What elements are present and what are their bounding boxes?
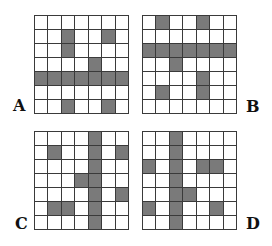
grid-cell-empty [183,202,195,215]
grid-cell-empty [224,100,236,113]
grid-cell-empty [35,30,47,43]
grid-cell-filled [48,202,60,215]
grid-cell-empty [197,132,209,145]
grid-cell-empty [210,30,222,43]
grid-cell-filled [35,72,47,85]
grid-cell-filled [170,160,182,173]
grid-cell-empty [224,72,236,85]
grid-cell-empty [210,86,222,99]
grid-cell-empty [102,44,114,57]
option-b-label: B [246,99,260,115]
grid-cell-empty [116,202,128,215]
grid-cell-empty [62,58,74,71]
grid-cell-empty [156,72,168,85]
grid-cell-empty [210,16,222,29]
grid-cell-empty [156,160,168,173]
grid-cell-empty [170,16,182,29]
grid-cell-empty [210,72,222,85]
grid-cell-empty [35,16,47,29]
grid-cell-empty [116,216,128,229]
grid-cell-empty [170,100,182,113]
grid-cell-empty [197,146,209,159]
option-c-grid [34,131,129,230]
grid-cell-empty [116,16,128,29]
grid-cell-empty [183,16,195,29]
grid-cell-filled [116,146,128,159]
option-a-label: A [13,98,25,114]
grid-cell-empty [35,216,47,229]
grid-cell-empty [48,216,60,229]
grid-cell-empty [75,30,87,43]
grid-cell-filled [170,44,182,57]
grid-cell-empty [224,16,236,29]
grid-cell-filled [170,146,182,159]
grid-cell-filled [89,188,101,201]
grid-cell-empty [183,100,195,113]
grid-cell-empty [48,100,60,113]
grid-cell-filled [170,188,182,201]
grid-cell-empty [143,100,155,113]
grid-cell-empty [89,44,101,57]
grid-cell-filled [62,100,74,113]
grid-cell-filled [170,132,182,145]
grid-cell-empty [35,174,47,187]
grid-cell-filled [102,72,114,85]
grid-cell-empty [197,30,209,43]
grid-cell-empty [143,58,155,71]
grid-cell-empty [197,188,209,201]
grid-cell-empty [224,146,236,159]
grid-cell-empty [224,188,236,201]
grid-cell-empty [224,30,236,43]
option-d-label: D [246,216,260,232]
grid-cell-empty [48,16,60,29]
grid-cell-filled [170,202,182,215]
grid-cell-filled [89,160,101,173]
grid-cell-empty [156,188,168,201]
grid-cell-filled [210,160,222,173]
grid-cell-empty [170,72,182,85]
grid-cell-empty [102,174,114,187]
grid-cell-filled [183,188,195,201]
grid-cell-empty [116,132,128,145]
grid-cell-filled [62,202,74,215]
grid-cell-empty [143,132,155,145]
grid-cell-empty [35,44,47,57]
grid-cell-empty [102,146,114,159]
grid-cell-empty [62,146,74,159]
grid-cell-empty [197,202,209,215]
grid-cell-empty [89,86,101,99]
grid-cell-empty [156,202,168,215]
grid-cell-empty [210,132,222,145]
grid-cell-empty [183,30,195,43]
grid-cell-empty [75,100,87,113]
grid-cell-filled [197,160,209,173]
grid-cell-filled [75,174,87,187]
grid-cell-empty [210,216,222,229]
option-b-grid [142,15,237,114]
grid-cell-empty [224,86,236,99]
grid-cell-filled [89,132,101,145]
grid-cell-filled [89,216,101,229]
grid-cell-filled [89,146,101,159]
grid-cell-filled [224,44,236,57]
grid-cell-empty [210,174,222,187]
grid-cell-empty [224,160,236,173]
grid-cell-filled [89,58,101,71]
grid-cell-empty [48,132,60,145]
grid-cell-empty [224,58,236,71]
grid-cell-filled [197,72,209,85]
grid-cell-empty [224,202,236,215]
option-d-grid [142,131,237,230]
grid-cell-empty [156,146,168,159]
grid-cell-empty [156,58,168,71]
grid-cell-empty [89,16,101,29]
grid-cell-empty [143,16,155,29]
grid-cell-empty [35,202,47,215]
grid-cell-empty [143,30,155,43]
grid-cell-empty [183,146,195,159]
grid-cell-filled [143,44,155,57]
grid-cell-empty [210,58,222,71]
grid-cell-empty [143,216,155,229]
grid-cell-empty [62,86,74,99]
grid-cell-empty [48,30,60,43]
